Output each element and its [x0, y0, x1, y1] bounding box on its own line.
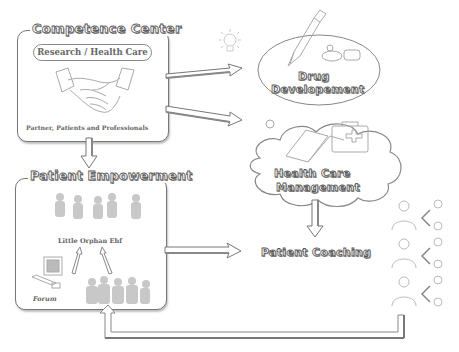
- patient-empowerment-title: Patient Empowerment: [28, 168, 195, 183]
- computer-icon: [30, 255, 66, 291]
- competence-center-title: Competence Center: [30, 21, 184, 36]
- forum-label: Forum: [33, 295, 57, 303]
- arrow-to-patient-coaching: [304, 200, 326, 240]
- arrow-to-drug-development: [166, 60, 246, 80]
- arrow-empowerment-to-coaching: [165, 241, 245, 261]
- feedback-loop-arrow: [98, 305, 414, 341]
- syringe-pills-icon: [280, 8, 370, 68]
- competence-center-caption: Partner, Patients and Professionals: [26, 124, 148, 131]
- arrow-to-health-care-management: [166, 104, 246, 128]
- handshake-icon: [50, 66, 140, 120]
- family-group-icon: [84, 276, 154, 304]
- coach-network-icon: [390, 196, 456, 312]
- health-care-management-title-line2: Management: [276, 181, 360, 194]
- little-orphan-group-label: Little Orphan Ehf: [58, 237, 122, 245]
- book-medical-case-icon: [286, 120, 376, 162]
- lightbulb-icon: [215, 28, 245, 56]
- stethoscope-icon: [262, 118, 282, 134]
- patient-coaching-title: Patient Coaching: [261, 246, 371, 259]
- drug-development-title-line2: Developement: [271, 83, 365, 96]
- up-arrows-icon: [68, 247, 118, 275]
- health-care-management-title-line1: Health Care: [274, 167, 350, 180]
- children-silhouettes-icon: [50, 192, 146, 230]
- competence-center-subtitle: Research / Health Care: [33, 44, 152, 61]
- drug-development-title-line1: Drug: [298, 70, 329, 83]
- arrow-to-patient-empowerment: [78, 138, 100, 170]
